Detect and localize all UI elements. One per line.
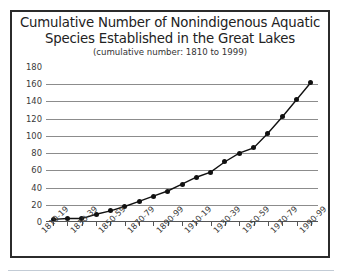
x-axis-tick-labels: 1810-191830-391850-591870-791890-991910-… — [46, 223, 318, 267]
y-axis-tick-label: 60 — [31, 165, 42, 175]
y-axis-tick-label: 20 — [31, 200, 42, 210]
y-axis-tick-label: 180 — [26, 62, 42, 72]
data-point — [194, 175, 199, 180]
bottom-divider — [8, 270, 334, 271]
data-point — [151, 194, 156, 199]
y-axis-tick-label: 160 — [26, 79, 42, 89]
y-axis-tick-label: 140 — [26, 96, 42, 106]
data-point — [237, 151, 242, 156]
series-line — [46, 67, 318, 222]
y-axis-tick-label: 100 — [26, 131, 42, 141]
data-point — [137, 199, 142, 204]
data-point — [180, 182, 185, 187]
y-axis-tick-label: 80 — [31, 148, 42, 158]
chart-title: Cumulative Number of Nonindigenous Aquat… — [12, 15, 328, 46]
plot-area: 180160140120100806040200 — [46, 67, 318, 222]
data-point — [165, 189, 170, 194]
chart-subtitle: (cumulative number: 1810 to 1999) — [12, 47, 328, 58]
chart-frame: Cumulative Number of Nonindigenous Aquat… — [10, 10, 330, 258]
plot-wrap: 180160140120100806040200 — [46, 67, 318, 222]
y-axis-tick-label: 120 — [26, 114, 42, 124]
title-block: Cumulative Number of Nonindigenous Aquat… — [12, 15, 328, 58]
y-axis-tick-label: 40 — [31, 183, 42, 193]
data-point — [208, 170, 213, 175]
